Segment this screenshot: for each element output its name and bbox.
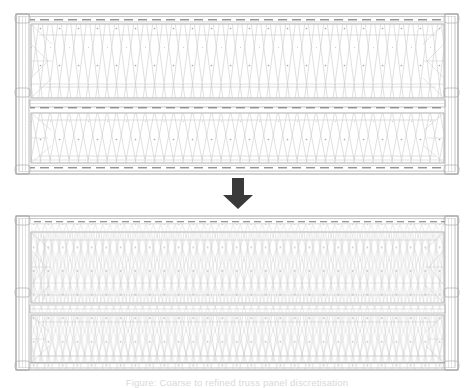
refined-mesh-svg [12, 212, 462, 374]
right-column [444, 216, 459, 370]
lower-panel-refined [31, 315, 444, 363]
bottom-chord-rail [30, 363, 445, 369]
left-column [15, 216, 30, 370]
left-column [15, 14, 30, 174]
coarse-mesh-svg [12, 10, 462, 178]
upper-panel-refined [31, 232, 444, 303]
mid-divider-beam [30, 100, 445, 110]
top-chord-rail [30, 17, 445, 22]
structure-before-coarse [12, 10, 462, 178]
down-arrow-icon [218, 178, 258, 210]
top-chord-rail [30, 219, 445, 231]
lower-panel-coarse [31, 113, 444, 163]
bottom-chord-rail [30, 165, 445, 170]
transform-arrow [218, 178, 258, 210]
figure-canvas: Figure: Coarse to refined truss panel di… [0, 0, 474, 388]
right-column [444, 14, 459, 174]
mid-divider-beam [30, 305, 445, 313]
structure-after-refined [12, 212, 462, 374]
figure-caption: Figure: Coarse to refined truss panel di… [0, 377, 474, 388]
upper-panel-coarse [31, 24, 444, 98]
